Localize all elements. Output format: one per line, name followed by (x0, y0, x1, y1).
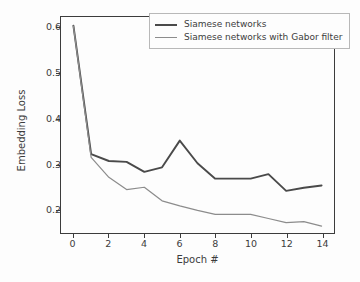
y-tick-mark (56, 73, 60, 74)
legend-label: Siamese networks (184, 19, 266, 30)
chart-legend: Siamese networks Siamese networks with G… (149, 13, 350, 49)
legend-swatch-icon (155, 37, 177, 38)
x-tick-label: 14 (313, 239, 333, 249)
legend-swatch-icon (155, 24, 177, 26)
x-tick-label: 4 (134, 239, 154, 249)
legend-item-siamese-networks: Siamese networks (155, 18, 342, 31)
line-siamese-networks (73, 26, 321, 191)
x-tick-mark (73, 234, 74, 238)
y-tick-mark (56, 165, 60, 166)
y-axis-label: Embedding Loss (16, 66, 27, 196)
x-tick-label: 0 (63, 239, 83, 249)
y-tick-mark (56, 210, 60, 211)
x-tick-label: 10 (241, 239, 261, 249)
x-tick-mark (251, 234, 252, 238)
x-tick-mark (287, 234, 288, 238)
x-tick-mark (180, 234, 181, 238)
x-axis-label: Epoch # (60, 254, 335, 265)
x-tick-label: 12 (277, 239, 297, 249)
x-tick-label: 6 (170, 239, 190, 249)
x-tick-label: 8 (205, 239, 225, 249)
line-siamese-networks-gabor (73, 26, 321, 226)
x-tick-mark (215, 234, 216, 238)
y-tick-mark (56, 119, 60, 120)
y-tick-mark (56, 27, 60, 28)
x-tick-mark (108, 234, 109, 238)
legend-label: Siamese networks with Gabor filter (184, 32, 342, 43)
x-tick-mark (323, 234, 324, 238)
series-svg (61, 17, 334, 233)
x-tick-label: 2 (98, 239, 118, 249)
chart-figure: Embedding Loss 0.20.30.40.50.60246810121… (0, 0, 360, 282)
legend-item-siamese-networks-gabor: Siamese networks with Gabor filter (155, 31, 342, 44)
x-tick-mark (144, 234, 145, 238)
